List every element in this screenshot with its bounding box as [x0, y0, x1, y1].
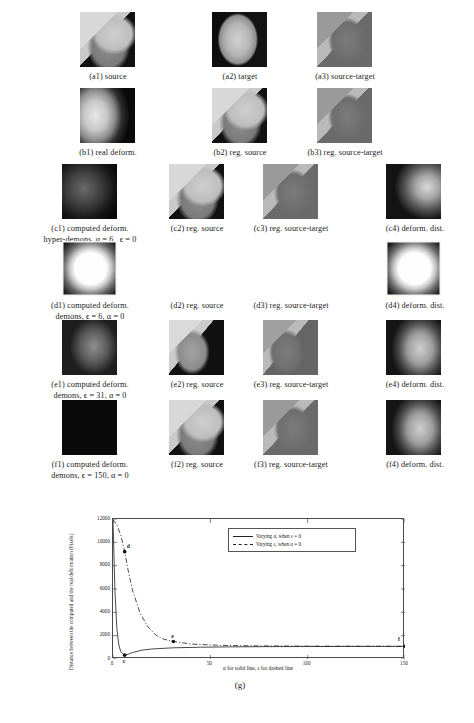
panel-a2-caption: (a2) target [193, 72, 287, 83]
panel-c4-image [386, 164, 441, 219]
subfigure-label-g: (g) [60, 680, 420, 690]
chart-legend: Varying α, when ϵ = 0 Varying ϵ, when α … [228, 528, 356, 552]
panel-d4-caption: (d4) deform. dist. [369, 301, 461, 312]
y-tick-label: 2000 [76, 631, 110, 637]
panel-f3-caption: (f3) reg. source-target [236, 460, 346, 471]
y-tick-label: 6000 [76, 585, 110, 591]
annotation-label-e: e [171, 633, 173, 639]
legend-label-0: Varying α, when ϵ = 0 [256, 532, 301, 540]
panel-c1-image [62, 164, 117, 219]
panel-d3-image [263, 241, 318, 296]
y-tick-label: 10000 [76, 538, 110, 544]
panel-e1-caption-line1: (e1) computed deform. [28, 380, 152, 391]
y-tick-label: 12000 [76, 515, 110, 521]
y-tick-label: 8000 [76, 561, 110, 567]
annotation-label-c: c [123, 658, 125, 664]
panel-f2-caption: (f2) reg. source [152, 460, 242, 471]
panel-b1-caption: (b1) real deform. [56, 148, 160, 159]
annotation-marker-d [123, 550, 127, 554]
legend-swatch-dashed [233, 542, 253, 547]
panel-f1-caption-line1: (f1) computed deform. [28, 460, 152, 471]
panel-d4-image [386, 241, 441, 296]
annotation-marker-c [123, 653, 127, 657]
panel-c4-caption: (c4) deform. dist. [369, 224, 461, 235]
panel-e4-caption: (e4) deform. dist. [369, 380, 461, 391]
panel-d2-image [169, 241, 224, 296]
panel-e3-image [263, 320, 318, 375]
chart-y-axis-label: Distance between the computed and the re… [68, 534, 74, 670]
convergence-chart: Distance between the computed and the re… [60, 512, 420, 692]
panel-e1-image [62, 320, 117, 375]
annotation-label-d: d [127, 543, 130, 549]
panel-e4-image [386, 320, 441, 375]
annotation-label-f: f [398, 636, 400, 642]
panel-b2-image [212, 88, 267, 143]
panel-a1-image [80, 12, 135, 67]
chart-x-axis-label: α for solid line, ϵ for dashed line [112, 665, 404, 671]
panel-f4-image [386, 400, 441, 455]
panel-f2-image [169, 400, 224, 455]
legend-entry-1: Varying ϵ, when α = 0 [233, 540, 351, 548]
panel-f1-caption-line2: demons, ϵ = 150, α = 0 [28, 471, 152, 482]
annotation-marker-f [403, 644, 405, 648]
panel-c1-caption-line1: (c1) computed deform. [28, 224, 152, 235]
panel-d1-caption: (d1) computed deform. demons, ϵ = 6, α =… [28, 301, 152, 322]
figure-container: (a1) source (a2) target (a3) source-targ… [0, 0, 474, 723]
panel-d1-image [62, 241, 117, 296]
panel-c2-caption: (c2) reg. source [152, 224, 242, 235]
panel-c2-image [169, 164, 224, 219]
panel-d2-caption: (d2) reg. source [152, 301, 242, 312]
panel-d3-caption: (d3) reg. source-target [236, 301, 346, 312]
panel-c3-image [263, 164, 318, 219]
y-tick-label: 4000 [76, 608, 110, 614]
panel-e3-caption: (e3) reg. source-target [236, 380, 346, 391]
panel-a3-image [317, 12, 372, 67]
panel-b1-image [80, 88, 135, 143]
legend-entry-0: Varying α, when ϵ = 0 [233, 532, 351, 540]
panel-b2-caption: (b2) reg. source [193, 148, 287, 159]
panel-a3-caption: (a3) source-target [290, 72, 400, 83]
annotation-marker-e [172, 640, 176, 644]
panel-d1-caption-line1: (d1) computed deform. [28, 301, 152, 312]
panel-a2-image [212, 12, 267, 67]
panel-f1-image [62, 400, 117, 455]
panel-a1-caption: (a1) source [60, 72, 156, 83]
panel-f1-caption: (f1) computed deform. demons, ϵ = 150, α… [28, 460, 152, 481]
panel-e1-caption: (e1) computed deform. demons, ϵ = 31, α … [28, 380, 152, 401]
panel-f3-image [263, 400, 318, 455]
panel-e2-caption: (e2) reg. source [152, 380, 242, 391]
legend-swatch-solid [233, 534, 253, 539]
panel-b3-caption: (b3) reg. source-target [288, 148, 402, 159]
panel-e2-image [169, 320, 224, 375]
legend-label-1: Varying ϵ, when α = 0 [256, 540, 301, 548]
panel-b3-image [317, 88, 372, 143]
panel-c3-caption: (c3) reg. source-target [236, 224, 346, 235]
panel-f4-caption: (f4) deform. dist. [369, 460, 461, 471]
